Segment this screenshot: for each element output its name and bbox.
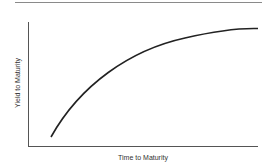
x-axis-label: Time to Maturity [118,154,168,161]
yield-curve-line [51,28,258,137]
yield-curve-plot [0,0,279,167]
y-axis-label: Yield to Maturity [14,58,21,108]
